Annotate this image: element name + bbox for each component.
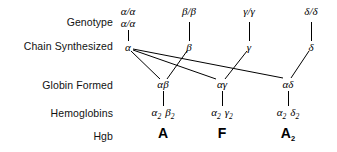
genotype-alpha: α/α α/α (108, 6, 148, 29)
hgb-a2-sub: 2 (291, 134, 295, 143)
hgb-a2-label: A (281, 125, 291, 141)
globin-alpha-delta: αδ (271, 79, 305, 90)
genotype-beta: β/β (169, 6, 209, 17)
globin-alpha-beta: αβ (146, 79, 180, 90)
wire-gamma-to-alpha-gamma (225, 51, 247, 79)
genotype-delta: δ/δ (291, 6, 331, 17)
wire-delta-to-alpha-delta (291, 51, 309, 78)
hemoglobin-a2g2: α2γ2 (197, 107, 247, 119)
genotype-beta-line1: β/β (182, 5, 196, 17)
hgb-a2: A2 (270, 128, 306, 141)
hgb-f: F (204, 128, 240, 141)
hemoglobin-a2d2-first: α2 (277, 107, 287, 119)
hemoglobin-a2d2-second: δ2 (290, 107, 299, 119)
genotype-gamma-line1: γ/γ (243, 5, 255, 17)
genotype-delta-line1: δ/δ (304, 5, 317, 17)
hgb-a: A (145, 128, 181, 141)
genotype-alpha-line1: α/α (121, 5, 136, 17)
hgb-a-label: A (158, 125, 168, 141)
wire-alpha-to-alpha-delta (133, 49, 283, 78)
hemoglobin-a2d2: α2δ2 (263, 107, 313, 119)
chain-gamma: γ (234, 42, 264, 53)
genotype-gamma: γ/γ (229, 6, 269, 17)
hgb-f-label: F (218, 125, 227, 141)
chain-delta: δ (296, 42, 326, 53)
chain-beta: β (174, 42, 204, 53)
hemoglobin-a2g2-second: γ2 (225, 107, 233, 119)
hemoglobin-a2b2: α2β2 (138, 107, 188, 119)
hemoglobin-a2g2-first: α2 (211, 107, 221, 119)
hemoglobin-synthesis-figure: Genotype Chain Synthesized Globin Formed… (0, 0, 337, 152)
wire-alpha-to-alpha-beta (131, 51, 160, 79)
hemoglobin-a2b2-second: β2 (165, 107, 174, 119)
genotype-alpha-line2: α/α (121, 17, 136, 29)
chain-alpha: α (113, 42, 143, 53)
wire-beta-to-alpha-beta (167, 51, 187, 79)
hemoglobin-a2b2-first: α2 (152, 107, 162, 119)
globin-alpha-gamma: αγ (205, 79, 239, 90)
